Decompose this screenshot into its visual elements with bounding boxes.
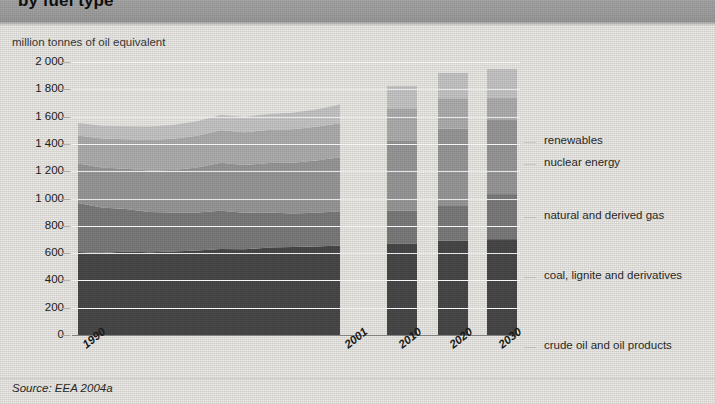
banner-shadow bbox=[0, 22, 715, 26]
source-note: Source: EEA 2004a bbox=[12, 382, 113, 394]
area-band-0 bbox=[78, 246, 340, 335]
y-tick-label: 1 400 bbox=[35, 137, 64, 149]
y-tick-mark bbox=[61, 89, 70, 90]
gridline bbox=[72, 199, 520, 200]
legend-leader-line bbox=[524, 142, 536, 143]
y-tick-mark bbox=[61, 144, 70, 145]
plot-area bbox=[72, 62, 520, 335]
gridline bbox=[72, 171, 520, 172]
y-tick-label: 0 bbox=[58, 328, 64, 340]
y-tick-label: 1 200 bbox=[35, 164, 64, 176]
gridline bbox=[72, 308, 520, 309]
bar-segment bbox=[438, 98, 468, 128]
y-tick-label: 1 000 bbox=[35, 192, 64, 204]
y-tick-mark bbox=[61, 199, 70, 200]
y-tick-label: 800 bbox=[45, 219, 64, 231]
y-tick-mark bbox=[61, 171, 70, 172]
bar-segment bbox=[438, 205, 468, 240]
y-tick-label: 200 bbox=[45, 301, 64, 313]
legend-label: natural and derived gas bbox=[544, 209, 664, 221]
y-tick-mark bbox=[61, 253, 70, 254]
bar-segment bbox=[387, 210, 417, 243]
y-tick-mark bbox=[61, 62, 70, 63]
y-tick-label: 600 bbox=[45, 246, 64, 258]
gridline bbox=[72, 62, 520, 63]
gridline bbox=[72, 280, 520, 281]
y-axis-unit-caption: million tonnes of oil equivalent bbox=[12, 36, 165, 48]
title-banner: by fuel type bbox=[0, 0, 715, 22]
legend: renewablesnuclear energynatural and deri… bbox=[520, 60, 715, 340]
bar-segment bbox=[387, 141, 417, 210]
y-tick-label: 1 600 bbox=[35, 110, 64, 122]
bar-segment bbox=[438, 241, 468, 336]
y-tick-mark bbox=[61, 226, 70, 227]
gridline bbox=[72, 117, 520, 118]
bar-segment bbox=[438, 73, 468, 98]
bar-segment bbox=[487, 120, 517, 194]
y-tick-label: 1 800 bbox=[35, 82, 64, 94]
legend-label: crude oil and oil products bbox=[544, 339, 672, 351]
legend-leader-line bbox=[524, 217, 536, 218]
gridline bbox=[72, 253, 520, 254]
legend-label: coal, lignite and derivatives bbox=[544, 269, 682, 281]
figure-root: by fuel type million tonnes of oil equiv… bbox=[0, 0, 715, 404]
y-tick-mark bbox=[61, 280, 70, 281]
bar-segment bbox=[387, 108, 417, 141]
page-title: by fuel type bbox=[18, 0, 114, 11]
legend-leader-line bbox=[524, 277, 536, 278]
y-axis: 2 0001 8001 6001 4001 2001 0008006004002… bbox=[0, 62, 64, 335]
legend-leader-line bbox=[524, 164, 536, 165]
gridline bbox=[72, 226, 520, 227]
bar-segment bbox=[487, 194, 517, 239]
y-tick-mark bbox=[61, 117, 70, 118]
bar-segment bbox=[438, 129, 468, 206]
gridline bbox=[72, 144, 520, 145]
bottom-divider bbox=[0, 378, 715, 379]
legend-leader-line bbox=[524, 347, 536, 348]
gridline bbox=[72, 89, 520, 90]
legend-label: nuclear energy bbox=[544, 156, 620, 168]
y-tick-mark bbox=[61, 335, 70, 336]
bar-segment bbox=[387, 244, 417, 335]
y-tick-mark bbox=[61, 308, 70, 309]
y-tick-label: 400 bbox=[45, 273, 64, 285]
legend-label: renewables bbox=[544, 134, 603, 146]
x-axis: 19902001201020202030 bbox=[72, 337, 532, 383]
y-tick-label: 2 000 bbox=[35, 55, 64, 67]
bar-segment bbox=[487, 69, 517, 98]
